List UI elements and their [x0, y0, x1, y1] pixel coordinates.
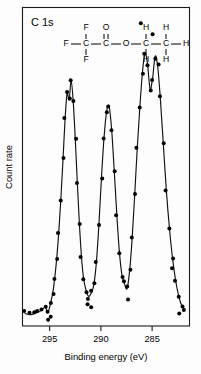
data-point	[142, 52, 146, 56]
data-point-scatter	[86, 302, 90, 306]
structure-atom-H-c3-top: H	[143, 22, 149, 32]
xps-figure: C 1s	[0, 0, 201, 374]
data-point	[92, 281, 96, 285]
x-axis-ticks	[50, 326, 152, 331]
structure-atom-O-ester: O	[123, 38, 130, 48]
x-tick-label-285: 285	[144, 334, 159, 344]
data-point-scatter	[126, 297, 130, 301]
data-point	[78, 222, 82, 226]
data-point	[52, 292, 56, 296]
data-point-scatter	[170, 266, 174, 270]
data-point	[69, 78, 73, 82]
data-point	[74, 137, 78, 141]
panel-label: C 1s	[31, 16, 54, 28]
structure-atom-F-top: F	[83, 22, 88, 32]
y-axis-title: Count rate	[3, 145, 14, 189]
structure-atom-C4: C	[163, 38, 169, 48]
spectrum-curve	[25, 53, 184, 315]
data-point	[164, 189, 168, 193]
structure-atom-C3: C	[143, 38, 149, 48]
data-point	[97, 223, 101, 227]
data-point	[94, 260, 98, 264]
data-point	[62, 116, 66, 120]
data-point	[146, 63, 150, 67]
data-point	[39, 308, 43, 312]
data-point	[59, 199, 63, 203]
data-point	[85, 290, 89, 294]
structure-atom-F-bottom: F	[83, 54, 88, 64]
data-point-scatter	[177, 312, 181, 316]
structure-atom-H-right: H	[183, 38, 189, 48]
data-point	[22, 309, 26, 313]
data-point	[86, 297, 90, 301]
data-point	[117, 251, 121, 255]
data-point	[71, 99, 75, 103]
data-point	[102, 136, 106, 140]
data-point	[68, 97, 72, 101]
data-point	[89, 289, 93, 293]
data-point	[105, 110, 109, 114]
data-point	[130, 235, 134, 239]
data-point	[27, 311, 31, 315]
data-point	[157, 63, 161, 67]
data-point	[134, 146, 138, 150]
data-point	[150, 78, 154, 82]
data-point	[162, 141, 166, 145]
structure-atom-C2: C	[103, 38, 109, 48]
structure-atom-F-left: F	[63, 38, 68, 48]
data-point	[171, 257, 175, 261]
data-point	[153, 57, 157, 61]
data-point	[182, 308, 186, 312]
data-point-scatter	[46, 318, 50, 322]
spectrum-plot	[22, 21, 186, 321]
x-tick-label-290: 290	[93, 334, 108, 344]
data-point	[79, 255, 83, 259]
data-point	[128, 268, 132, 272]
data-point	[141, 72, 145, 76]
data-point	[46, 310, 50, 314]
structure-atom-labels: FFFCCOOCHHCHHH	[63, 22, 189, 64]
data-point	[109, 128, 113, 132]
data-point-scatter	[139, 21, 143, 25]
data-point	[167, 226, 171, 230]
figure-canvas: C 1s	[0, 0, 201, 374]
data-point	[121, 275, 125, 279]
data-point	[122, 279, 126, 283]
data-point-scatter	[151, 32, 155, 36]
spectrum-data-points	[22, 21, 186, 321]
data-point	[114, 213, 118, 217]
data-point	[173, 279, 177, 283]
data-point	[75, 181, 79, 185]
data-point	[81, 277, 85, 281]
data-point	[106, 104, 110, 108]
data-point	[113, 169, 117, 173]
x-tick-label-295: 295	[42, 334, 57, 344]
data-point	[61, 156, 65, 160]
data-point	[181, 305, 185, 309]
data-point	[55, 257, 59, 261]
data-point	[158, 94, 162, 98]
structure-atom-H-c4-bot: H	[163, 54, 169, 64]
data-point-scatter	[49, 315, 53, 319]
data-point	[125, 284, 129, 288]
x-axis-tick-labels: 295290285	[42, 334, 160, 344]
data-point	[149, 89, 153, 93]
x-axis-title: Binding energy (eV)	[65, 351, 148, 362]
structure-atom-H-c4-top: H	[163, 22, 169, 32]
chemical-structure-diagram: FFFCCOOCHHCHHH	[63, 22, 189, 64]
data-point	[44, 305, 48, 309]
data-point	[133, 192, 137, 196]
data-point	[177, 295, 181, 299]
data-point-scatter	[89, 305, 93, 309]
data-point	[35, 309, 39, 313]
data-point	[138, 106, 142, 110]
data-point	[56, 231, 60, 235]
structure-atom-C1: C	[83, 38, 89, 48]
data-point	[65, 90, 69, 94]
structure-atom-O-double: O	[103, 22, 110, 32]
data-point	[52, 277, 56, 281]
data-point	[49, 301, 53, 305]
data-point	[100, 177, 104, 181]
